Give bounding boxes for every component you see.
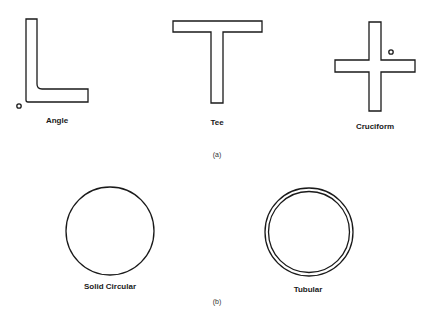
cruciform-label: Cruciform bbox=[356, 122, 394, 131]
tubular-label: Tubular bbox=[294, 285, 323, 294]
tee-section bbox=[173, 21, 262, 103]
part-b-caption: (b) bbox=[213, 298, 222, 305]
tubular-inner-wall bbox=[269, 192, 350, 273]
cruciform-shear-center bbox=[389, 50, 393, 54]
angle-shear-center bbox=[17, 104, 21, 108]
solid-circular-section bbox=[66, 187, 154, 275]
tee-label: Tee bbox=[210, 118, 223, 127]
angle-section bbox=[26, 19, 88, 102]
angle-label: Angle bbox=[46, 116, 68, 125]
tubular-outer-wall bbox=[265, 188, 353, 276]
cross-sections-figure: Angle Tee Cruciform (a) Solid Circular T… bbox=[0, 0, 433, 309]
part-a-caption: (a) bbox=[213, 151, 222, 158]
solid-circular-label: Solid Circular bbox=[84, 282, 136, 291]
cruciform-section bbox=[335, 22, 415, 111]
